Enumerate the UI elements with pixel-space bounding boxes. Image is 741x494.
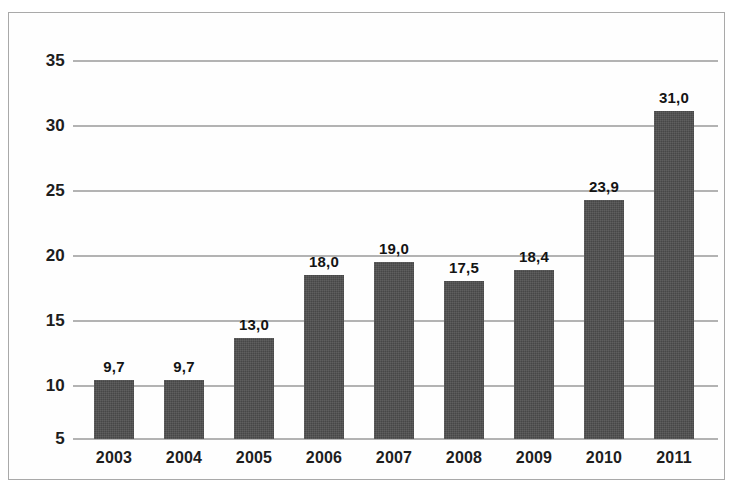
y-axis-tick-5: 5	[29, 429, 65, 449]
bar-value-2008: 17,5	[429, 259, 499, 276]
bar-value-2009: 18,4	[499, 248, 569, 265]
bar-value-2004: 9,7	[149, 358, 219, 375]
bar-2007[interactable]	[374, 262, 414, 439]
x-axis-tick-2004: 2004	[144, 449, 224, 467]
bar-2003[interactable]	[94, 380, 134, 439]
x-axis-tick-2008: 2008	[424, 449, 504, 467]
bar-2011[interactable]	[654, 111, 694, 439]
bar-value-2010: 23,9	[569, 178, 639, 195]
bar-2006[interactable]	[304, 275, 344, 439]
x-axis-tick-2006: 2006	[284, 449, 364, 467]
plot-area: 35 30 25 20 15 10 5 9,7 9,7 13,0 18,0 19…	[9, 13, 726, 481]
x-axis-tick-2007: 2007	[354, 449, 434, 467]
x-axis-tick-2005: 2005	[214, 449, 294, 467]
y-axis-tick-35: 35	[29, 51, 65, 71]
gridline-30	[73, 125, 718, 127]
bar-value-2006: 18,0	[289, 253, 359, 270]
bar-2005[interactable]	[234, 338, 274, 439]
y-axis-tick-10: 10	[29, 376, 65, 396]
bar-2009[interactable]	[514, 270, 554, 439]
bar-value-2003: 9,7	[79, 358, 149, 375]
y-axis-tick-15: 15	[29, 311, 65, 331]
y-axis-tick-20: 20	[29, 246, 65, 266]
y-axis-tick-25: 25	[29, 181, 65, 201]
bar-value-2005: 13,0	[219, 316, 289, 333]
chart-frame: 35 30 25 20 15 10 5 9,7 9,7 13,0 18,0 19…	[8, 12, 725, 480]
bar-value-2011: 31,0	[639, 89, 709, 106]
bar-2008[interactable]	[444, 281, 484, 439]
bar-2010[interactable]	[584, 200, 624, 439]
x-axis-tick-2003: 2003	[74, 449, 154, 467]
x-axis-tick-2011: 2011	[634, 449, 714, 467]
x-axis-tick-2010: 2010	[564, 449, 644, 467]
gridline-35	[73, 60, 718, 62]
bar-2004[interactable]	[164, 380, 204, 439]
x-axis-tick-2009: 2009	[494, 449, 574, 467]
y-axis-tick-30: 30	[29, 116, 65, 136]
bar-value-2007: 19,0	[359, 240, 429, 257]
